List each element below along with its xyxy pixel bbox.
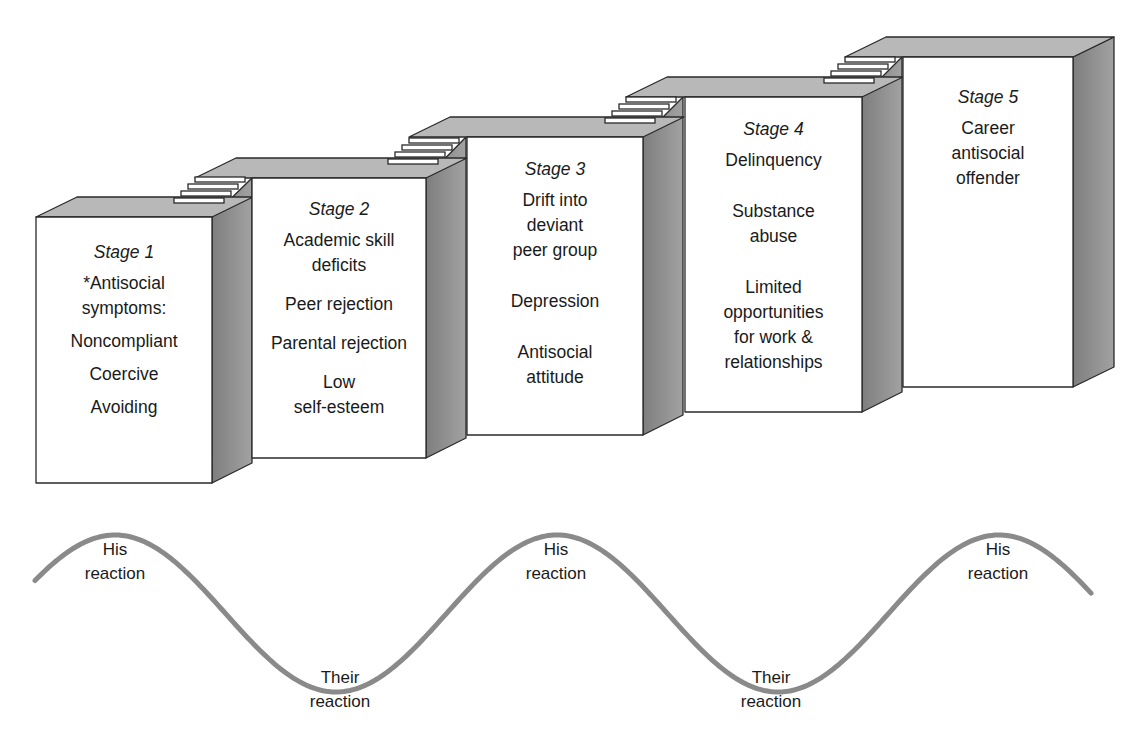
stage-4-title: Stage 4 — [685, 117, 862, 142]
stair-step — [605, 118, 655, 123]
stage-4-item: Substance abuse — [685, 199, 862, 249]
stage-2-item: Peer rejection — [252, 292, 426, 317]
stair-step — [195, 177, 245, 182]
wave-label-his-reaction: His reaction — [938, 538, 1058, 586]
stair-step — [838, 64, 888, 69]
stage-1-item: *Antisocial symptoms: — [36, 271, 212, 321]
stair-step — [409, 138, 459, 143]
stage-2-item: Parental rejection — [252, 331, 426, 356]
stage-1-item: Coercive — [36, 362, 212, 387]
stage-2-text: Stage 2 Academic skill deficits Peer rej… — [252, 197, 426, 428]
stage-3-title: Stage 3 — [467, 157, 643, 182]
stage-4-item: Delinquency — [685, 148, 862, 173]
stair-step — [188, 184, 238, 189]
stair-step — [831, 71, 881, 76]
stage-5-title: Stage 5 — [903, 85, 1073, 110]
block-top-face — [845, 37, 1114, 57]
stage-4-item: Limited opportunities for work & relatio… — [685, 275, 862, 375]
stage-5-item: Career antisocial offender — [903, 116, 1073, 191]
stair-step — [845, 57, 895, 62]
stair-step — [388, 159, 438, 164]
stage-1-text: Stage 1 *Antisocial symptoms: Noncomplia… — [36, 240, 212, 428]
stage-5-text: Stage 5 Career antisocial offender — [903, 85, 1073, 199]
stage-3-text: Stage 3 Drift into deviant peer group De… — [467, 157, 643, 398]
stair-step — [612, 111, 662, 116]
stair-step — [395, 152, 445, 157]
block-side-face — [643, 97, 683, 435]
block-side-face — [426, 137, 466, 458]
block-side-face — [1073, 37, 1114, 387]
stage-2-item: Academic skill deficits — [252, 228, 426, 278]
stage-3-item: Drift into deviant peer group — [467, 188, 643, 263]
stair-step — [174, 198, 224, 203]
block-side-face — [862, 57, 902, 412]
stair-step — [619, 104, 669, 109]
wave-label-their-reaction: Their reaction — [711, 666, 831, 714]
stage-3-item: Antisocial attitude — [467, 340, 643, 390]
stage-1-item: Avoiding — [36, 395, 212, 420]
wave-label-their-reaction: Their reaction — [280, 666, 400, 714]
stair-step — [181, 191, 231, 196]
wave-label-his-reaction: His reaction — [496, 538, 616, 586]
stage-2-item: Low self-esteem — [252, 370, 426, 420]
stage-1-title: Stage 1 — [36, 240, 212, 265]
stage-3-item: Depression — [467, 289, 643, 314]
block-side-face — [212, 178, 252, 483]
stair-step — [824, 78, 874, 83]
stair-step — [626, 97, 676, 102]
wave-label-his-reaction: His reaction — [55, 538, 175, 586]
stage-2-title: Stage 2 — [252, 197, 426, 222]
stage-4-text: Stage 4 Delinquency Substance abuse Limi… — [685, 117, 862, 383]
stage-1-item: Noncompliant — [36, 329, 212, 354]
stair-step — [402, 145, 452, 150]
